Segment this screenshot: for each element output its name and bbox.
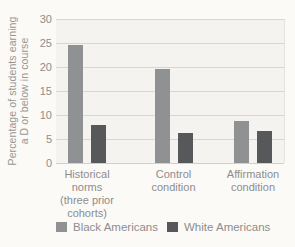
legend-item-white-americans: White Americans — [167, 221, 270, 233]
y-tick-label-15: 15 — [0, 85, 52, 97]
figure-bar-chart: Percentage of students earning a D or be… — [0, 0, 295, 247]
gridline-20 — [56, 67, 284, 68]
legend: Black AmericansWhite Americans — [0, 221, 295, 237]
y-tick-label-5: 5 — [0, 133, 52, 145]
gridline-10 — [56, 115, 284, 116]
legend-swatch-black-americans — [56, 222, 67, 232]
bar-black-americans-historical-norms-three-prior-cohorts — [68, 45, 83, 163]
legend-label-white-americans: White Americans — [184, 221, 270, 233]
x-axis-label-line-4: cohorts) — [42, 207, 132, 220]
bar-white-americans-control-condition — [178, 133, 193, 163]
x-axis-label-line-1: Control — [129, 168, 219, 181]
gridline-30 — [56, 19, 284, 20]
gridline-0 — [56, 163, 284, 164]
legend-swatch-white-americans — [167, 222, 178, 232]
plot-area — [56, 19, 285, 163]
y-tick-label-30: 30 — [0, 13, 52, 25]
x-axis-label-line-1: Historical — [42, 168, 132, 181]
x-axis-label-line-1: Affirmation — [208, 168, 295, 181]
x-axis-label-affirmation-condition: Affirmationcondition — [208, 168, 295, 194]
bar-black-americans-control-condition — [155, 69, 170, 163]
x-axis-label-line-2: condition — [129, 181, 219, 194]
y-tick-label-25: 25 — [0, 37, 52, 49]
x-axis-label-line-2: norms — [42, 181, 132, 194]
gridline-15 — [56, 91, 284, 92]
bar-white-americans-historical-norms-three-prior-cohorts — [91, 125, 106, 163]
x-axis-label-control-condition: Controlcondition — [129, 168, 219, 194]
bar-black-americans-affirmation-condition — [234, 121, 249, 163]
gridline-25 — [56, 43, 284, 44]
bar-white-americans-affirmation-condition — [257, 131, 272, 163]
x-axis-label-line-2: condition — [208, 181, 295, 194]
y-tick-label-20: 20 — [0, 61, 52, 73]
x-axis-label-historical-norms-three-prior-cohorts: Historicalnorms(three priorcohorts) — [42, 168, 132, 220]
legend-label-black-americans: Black Americans — [73, 221, 158, 233]
legend-item-black-americans: Black Americans — [56, 221, 158, 233]
y-tick-label-10: 10 — [0, 109, 52, 121]
x-axis-label-line-3: (three prior — [42, 194, 132, 207]
